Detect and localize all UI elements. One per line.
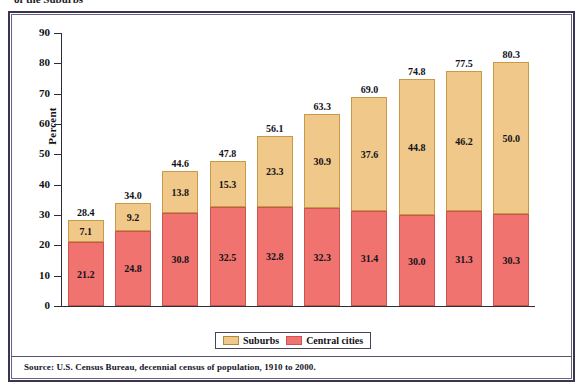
bar-value-label-central-cities: 31.4 [352,253,386,264]
y-tick-label: 30 [6,208,50,220]
y-tick-label-wrap: 30 [6,215,50,216]
bar-segment-suburbs[interactable]: 30.9 [304,114,340,208]
bar-segment-central-cities[interactable]: 30.8 [162,213,198,306]
bar-segment-central-cities[interactable]: 32.8 [257,207,293,306]
bar-value-label-suburbs: 30.9 [305,156,339,167]
bar-segment-suburbs[interactable]: 44.8 [399,79,435,215]
y-tick-label-wrap: 40 [6,185,50,186]
figure-title-clipped: of the Suburbs [14,0,254,3]
y-tick-mark [54,185,61,186]
bar-value-label-central-cities: 30.0 [400,256,434,267]
bar-total-label: 56.1 [253,123,297,134]
bar-total-label: 34.0 [111,190,155,201]
bar-total-label: 28.4 [64,207,108,218]
bar-segment-central-cities[interactable]: 32.5 [210,207,246,306]
bar-segment-suburbs[interactable]: 23.3 [257,136,293,207]
legend-label-suburbs: Suburbs [243,335,279,346]
y-tick-mark [54,33,61,34]
central-cities-swatch-icon [286,336,302,345]
bar-value-label-central-cities: 30.8 [163,254,197,265]
bar-segment-central-cities[interactable]: 30.3 [493,214,529,306]
bar-total-label: 63.3 [300,101,344,112]
bar-segment-suburbs[interactable]: 50.0 [493,62,529,214]
y-tick-label: 10 [6,269,50,281]
figure-container: of the Suburbs Percent 01020304050607080… [0,0,583,388]
bar-value-label-suburbs: 23.3 [258,166,292,177]
y-tick-label-wrap: 60 [6,124,50,125]
y-tick-mark [54,215,61,216]
bar-total-label: 74.8 [395,66,439,77]
bar-segment-central-cities[interactable]: 21.2 [68,242,104,306]
y-tick-mark [54,245,61,246]
y-tick-label: 90 [6,26,50,38]
y-tick-label-wrap: 90 [6,33,50,34]
bar-segment-suburbs[interactable]: 13.8 [162,171,198,213]
bar-value-label-suburbs: 7.1 [69,226,103,237]
y-tick-mark [54,154,61,155]
bar-segment-central-cities[interactable]: 24.8 [115,231,151,306]
bar-segment-central-cities[interactable]: 30.0 [399,215,435,306]
y-tick-label-wrap: 80 [6,63,50,64]
bar-value-label-central-cities: 30.3 [494,255,528,266]
legend-label-central-cities: Central cities [306,335,363,346]
bar-value-label-suburbs: 9.2 [116,212,150,223]
y-tick-label-wrap: 50 [6,154,50,155]
y-tick-mark [54,124,61,125]
bar-value-label-central-cities: 24.8 [116,263,150,274]
bar-value-label-central-cities: 21.2 [69,269,103,280]
bar-total-label: 69.0 [347,84,391,95]
bar-segment-suburbs[interactable]: 15.3 [210,161,246,207]
y-tick-label: 60 [6,117,50,129]
chart-legend: Suburbs Central cities [215,332,371,349]
y-tick-mark [54,94,61,95]
bar-value-label-suburbs: 50.0 [494,133,528,144]
bar-segment-central-cities[interactable]: 32.3 [304,208,340,306]
bar-series-layer: 21.27.128.4191024.89.234.0192030.813.844… [62,33,535,306]
legend-item-suburbs[interactable]: Suburbs [223,335,279,346]
bar-value-label-suburbs: 13.8 [163,187,197,198]
x-axis-line [61,306,535,307]
bar-total-label: 44.6 [158,158,202,169]
y-tick-label-wrap: 70 [6,94,50,95]
bar-segment-central-cities[interactable]: 31.3 [446,211,482,306]
bar-value-label-suburbs: 46.2 [447,136,481,147]
bar-value-label-central-cities: 32.5 [211,252,245,263]
y-tick-mark [54,306,61,307]
y-tick-label: 0 [6,299,50,311]
bar-total-label: 47.8 [206,148,250,159]
y-tick-label: 20 [6,238,50,250]
bar-value-label-suburbs: 44.8 [400,142,434,153]
bar-value-label-central-cities: 31.3 [447,254,481,265]
bar-segment-suburbs[interactable]: 46.2 [446,71,482,211]
bar-value-label-suburbs: 15.3 [211,179,245,190]
y-tick-label: 70 [6,87,50,99]
suburbs-swatch-icon [223,336,239,345]
y-tick-label-wrap: 20 [6,245,50,246]
bar-segment-suburbs[interactable]: 9.2 [115,203,151,231]
y-tick-label: 40 [6,178,50,190]
y-tick-mark [54,276,61,277]
bar-total-label: 80.3 [489,49,533,60]
y-tick-label-wrap: 0 [6,306,50,307]
bar-total-label: 77.5 [442,58,486,69]
y-tick-label-wrap: 10 [6,276,50,277]
bar-segment-suburbs[interactable]: 37.6 [351,97,387,211]
bar-value-label-central-cities: 32.8 [258,251,292,262]
legend-item-central-cities[interactable]: Central cities [286,335,363,346]
bar-value-label-central-cities: 32.3 [305,252,339,263]
y-tick-mark [54,63,61,64]
bar-value-label-suburbs: 37.6 [352,149,386,160]
y-tick-label: 50 [6,147,50,159]
source-note: Source: U.S. Census Bureau, decennial ce… [24,362,316,372]
bar-segment-central-cities[interactable]: 31.4 [351,211,387,306]
y-tick-label: 80 [6,56,50,68]
bar-segment-suburbs[interactable]: 7.1 [68,220,104,242]
source-divider [11,356,572,357]
